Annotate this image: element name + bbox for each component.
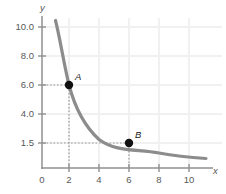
data-curve bbox=[56, 21, 207, 159]
guide-lines-a bbox=[43, 85, 69, 167]
data-point-a bbox=[65, 81, 73, 89]
point-label-b: B bbox=[135, 129, 141, 140]
chart-container: 10.0 8.0 6.0 4.0 1.5 0 2 4 6 8 10 y x A … bbox=[0, 0, 226, 194]
point-label-a: A bbox=[75, 71, 81, 82]
y-tick-label-6: 6.0 bbox=[2, 79, 34, 90]
x-tick-label-8: 8 bbox=[149, 174, 169, 185]
x-tick-label-6: 6 bbox=[119, 174, 139, 185]
x-tick-label-0: 0 bbox=[32, 174, 52, 185]
y-tick-label-8: 8.0 bbox=[2, 50, 34, 61]
x-tick-label-10: 10 bbox=[179, 174, 199, 185]
y-tick-label-10: 10.0 bbox=[2, 21, 34, 32]
x-tick-label-4: 4 bbox=[89, 174, 109, 185]
data-point-b bbox=[125, 139, 133, 147]
x-tick-label-2: 2 bbox=[59, 174, 79, 185]
x-axis-label: x bbox=[213, 165, 218, 176]
y-tick-label-4: 4.0 bbox=[2, 108, 34, 119]
y-axis-label: y bbox=[40, 2, 45, 13]
y-tick-label-1-5: 1.5 bbox=[2, 137, 34, 148]
